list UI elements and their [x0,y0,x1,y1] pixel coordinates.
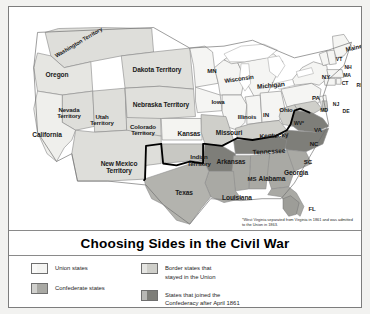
state-nebraska-territory [125,86,195,118]
state-maine [332,34,351,57]
legend-item-confederate: Confederate states [31,283,141,294]
legend-label-confederate: Confederate states [55,283,105,292]
state-rhode-island [336,78,341,84]
state-alabama [249,154,270,189]
legend-swatch-union [31,263,48,274]
legend-swatch-joined-after-april-1861 [141,290,158,301]
state-connecticut [324,78,335,85]
legend-item-border: Border states that stayed in the Union [141,263,240,280]
map-legend: Union states Confederate states Border s… [9,256,361,307]
state-nevada-territory [62,91,94,130]
title-bar: Choosing Sides in the Civil War [9,231,361,256]
figure-frame: Washington TerritoryOregonDakota Territo… [0,0,370,314]
map-figure-card: Washington TerritoryOregonDakota Territo… [8,6,362,308]
legend-label-border: Border states that stayed in the Union [165,263,215,280]
legend-item-joined-after-april-1861: States that joined the Confederacy after… [141,290,240,307]
state-kansas [161,118,202,140]
state-arkansas [203,144,235,171]
legend-label-union: Union states [55,263,88,272]
map-area: Washington TerritoryOregonDakota Territo… [9,7,361,231]
state-indiana [245,95,262,124]
legend-column-left: Union states Confederate states [31,263,141,307]
state-indian-territory [161,144,203,164]
map-title: Choosing Sides in the Civil War [81,236,290,251]
state-texas [144,160,211,225]
state-virginia [291,111,329,133]
legend-item-union: Union states [31,263,141,274]
state-minnesota [190,46,219,87]
legend-swatch-border [141,263,158,274]
us-civil-war-map [9,7,361,230]
map-footnote: *West Virginia separated from Virginia i… [242,217,354,227]
state-utah-territory [93,88,127,132]
legend-label-joined-after-april-1861: States that joined the Confederacy after… [165,290,240,307]
legend-swatch-confederate [31,283,48,294]
legend-column-right: Border states that stayed in the Union S… [141,263,240,307]
state-iowa [195,87,222,112]
state-new-mexico-territory [72,130,161,181]
